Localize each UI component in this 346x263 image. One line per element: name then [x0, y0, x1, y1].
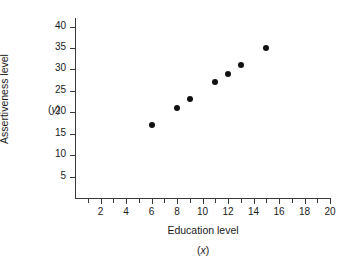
- x-tick-label: 2: [89, 206, 113, 218]
- x-tick-minor: [88, 199, 89, 203]
- x-tick-minor: [317, 199, 318, 203]
- x-tick-minor: [292, 199, 293, 203]
- x-tick-minor: [164, 199, 165, 203]
- x-tick-minor: [139, 199, 140, 203]
- y-tick-label: 15: [42, 127, 66, 139]
- x-tick-major: [305, 199, 306, 204]
- x-axis-symbol: (x): [75, 244, 331, 257]
- y-tick: 30: [70, 69, 75, 70]
- y-tick: 20: [70, 112, 75, 113]
- x-tick-label: 8: [165, 206, 189, 218]
- x-tick-label: 10: [191, 206, 215, 218]
- x-tick-minor: [215, 199, 216, 203]
- x-axis-title: Education level: [75, 224, 331, 237]
- y-tick-label: 5: [42, 170, 66, 182]
- y-tick: 25: [70, 91, 75, 92]
- x-tick-major: [279, 199, 280, 204]
- data-point: [238, 62, 244, 68]
- x-tick-label: 20: [318, 206, 342, 218]
- y-tick-label: 40: [42, 20, 66, 32]
- x-tick-minor: [113, 199, 114, 203]
- y-tick-label: 35: [42, 41, 66, 53]
- scatter-plot-figure: Assertiveness level (y) 510152025303540 …: [0, 0, 346, 263]
- x-tick-minor: [190, 199, 191, 203]
- y-tick-label: 30: [42, 62, 66, 74]
- x-tick-major: [126, 199, 127, 204]
- x-tick-major: [152, 199, 153, 204]
- x-tick-major: [101, 199, 102, 204]
- data-point: [187, 96, 193, 102]
- y-tick: 40: [70, 27, 75, 28]
- x-tick-minor: [241, 199, 242, 203]
- y-axis-title-text: Assertiveness level: [0, 14, 11, 184]
- data-point: [212, 79, 218, 85]
- y-tick-label: 25: [42, 84, 66, 96]
- x-tick-label: 12: [216, 206, 240, 218]
- x-tick-label: 4: [114, 206, 138, 218]
- x-tick-label: 18: [293, 206, 317, 218]
- data-point: [174, 105, 180, 111]
- y-tick: 10: [70, 155, 75, 156]
- data-point: [225, 71, 231, 77]
- y-tick: 5: [70, 177, 75, 178]
- x-tick-major: [254, 199, 255, 204]
- x-tick-major: [330, 199, 331, 204]
- y-axis-spine: [75, 18, 76, 199]
- y-tick-label: 20: [42, 105, 66, 117]
- x-tick-minor: [266, 199, 267, 203]
- x-tick-label: 16: [267, 206, 291, 218]
- y-tick: 15: [70, 134, 75, 135]
- data-point: [149, 122, 155, 128]
- x-tick-label: 6: [140, 206, 164, 218]
- x-tick-major: [177, 199, 178, 204]
- data-point: [263, 45, 269, 51]
- plot-area: 510152025303540 2468101214161820: [75, 18, 330, 198]
- x-tick-major: [228, 199, 229, 204]
- x-tick-label: 14: [242, 206, 266, 218]
- x-tick-major: [203, 199, 204, 204]
- y-tick: 35: [70, 48, 75, 49]
- y-tick-label: 10: [42, 148, 66, 160]
